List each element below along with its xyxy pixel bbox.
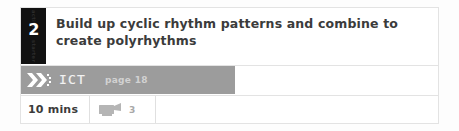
resource-label: ICT [59, 71, 86, 88]
duration-text: 10 mins [28, 103, 78, 116]
blank-cell [156, 96, 438, 123]
activity-objective-text: Build up cyclic rhythm patterns and comb… [56, 15, 428, 49]
media-count: 3 [129, 105, 135, 115]
activity-card: activity 2 starter Build up cyclic rhyth… [20, 7, 439, 124]
resource-bar: ICT page 18 [21, 66, 235, 94]
video-camera-icon [99, 102, 123, 117]
activity-number-badge-vertical-label-bottom: starter [31, 40, 37, 62]
activity-objective-row: activity 2 starter Build up cyclic rhyth… [20, 7, 439, 65]
activity-objective-line-1: Build up cyclic rhythm patterns and comb… [56, 15, 428, 32]
page-canvas: activity 2 starter Build up cyclic rhyth… [0, 0, 459, 131]
duration-cell: 10 mins [21, 96, 90, 123]
activity-number-badge: activity 2 starter [21, 8, 46, 64]
double-chevron-right-icon [27, 73, 53, 87]
activity-resource-row: ICT page 18 [20, 65, 439, 95]
activity-number: 2 [21, 22, 46, 38]
activity-meta-row: 10 mins 3 [20, 95, 439, 124]
resource-page-reference: page 18 [105, 75, 148, 86]
media-cell: 3 [90, 96, 156, 123]
activity-objective-line-2: create polyrhythms [56, 32, 428, 49]
